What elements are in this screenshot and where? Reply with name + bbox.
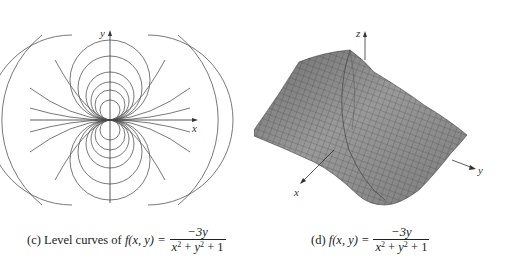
panel-level-curves: y x (c) Level curves of f(x, y) = −3y x2…	[0, 0, 254, 260]
caption-prefix: (d)	[311, 233, 326, 248]
x-axis-label: x	[293, 186, 299, 198]
fraction: −3y x2 + y2 + 1	[170, 226, 226, 254]
denominator: x2 + y2 + 1	[373, 239, 429, 254]
axes	[30, 33, 195, 203]
surface	[254, 50, 467, 205]
panel-surface: z x y (d) f(x, y) = −3y x2 + y2 + 1	[254, 0, 508, 260]
contour-plot: y x	[0, 0, 254, 220]
y-axis-arrow-icon	[469, 165, 476, 170]
denominator: x2 + y2 + 1	[170, 239, 226, 254]
caption-func: f(x, y) =	[125, 233, 166, 248]
caption-c: (c) Level curves of f(x, y) = −3y x2 + y…	[27, 226, 226, 254]
y-axis-arrow-icon	[108, 30, 112, 36]
z-axis-label: z	[355, 27, 361, 39]
z-axis-arrow-icon	[363, 31, 367, 37]
fraction: −3y x2 + y2 + 1	[373, 226, 429, 254]
surface-plot: z x y	[254, 0, 508, 220]
y-axis-label: y	[477, 164, 483, 176]
numerator: −3y	[389, 226, 413, 239]
caption-d: (d) f(x, y) = −3y x2 + y2 + 1	[311, 226, 429, 254]
numerator: −3y	[185, 226, 209, 239]
caption-func: f(x, y) =	[329, 233, 370, 248]
y-axis-label: y	[99, 27, 105, 39]
x-axis-label: x	[191, 122, 197, 134]
caption-prefix: (c) Level curves of	[27, 233, 122, 248]
